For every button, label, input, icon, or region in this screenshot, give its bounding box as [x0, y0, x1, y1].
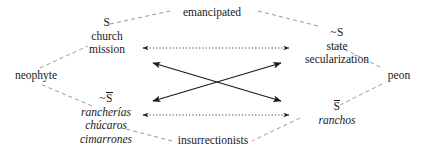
node-not-s-line-1: state	[272, 40, 402, 54]
node-not-s-bar-line-3: cimarrones	[48, 133, 164, 147]
node-s-line-2: mission	[52, 43, 162, 57]
node-s-bar-symbol-letter: S	[334, 100, 341, 114]
vertex-label-neophyte: neophyte	[2, 69, 70, 81]
node-s-line-1: church	[52, 30, 162, 44]
node-s: S church mission	[52, 16, 162, 57]
node-not-s-bar-symbol-letter: S	[106, 92, 113, 106]
node-not-s-bar-line-1: rancherías	[48, 106, 164, 120]
node-s-bar-symbol: S	[276, 100, 398, 114]
vertex-label-emancipated: emancipated	[152, 6, 272, 18]
node-not-s-symbol: ~S	[272, 26, 402, 40]
node-not-s-line-2: secularization	[272, 53, 402, 67]
semiotic-square-diagram: S church mission ~S state secularization…	[0, 0, 423, 158]
vertex-label-insurrectionists: insurrectionists	[148, 134, 278, 146]
node-not-s-bar: ~S rancherías chúcaros cimarrones	[48, 92, 164, 146]
node-s-bar: S ranchos	[276, 100, 398, 127]
node-not-s: ~S state secularization	[272, 26, 402, 67]
node-not-s-bar-symbol-prefix: ~	[99, 92, 106, 104]
node-not-s-bar-line-2: chúcaros	[48, 119, 164, 133]
node-s-bar-line-1: ranchos	[276, 114, 398, 128]
node-s-symbol: S	[52, 16, 162, 30]
vertex-label-peon: peon	[376, 69, 422, 81]
node-not-s-bar-symbol: ~S	[48, 92, 164, 106]
